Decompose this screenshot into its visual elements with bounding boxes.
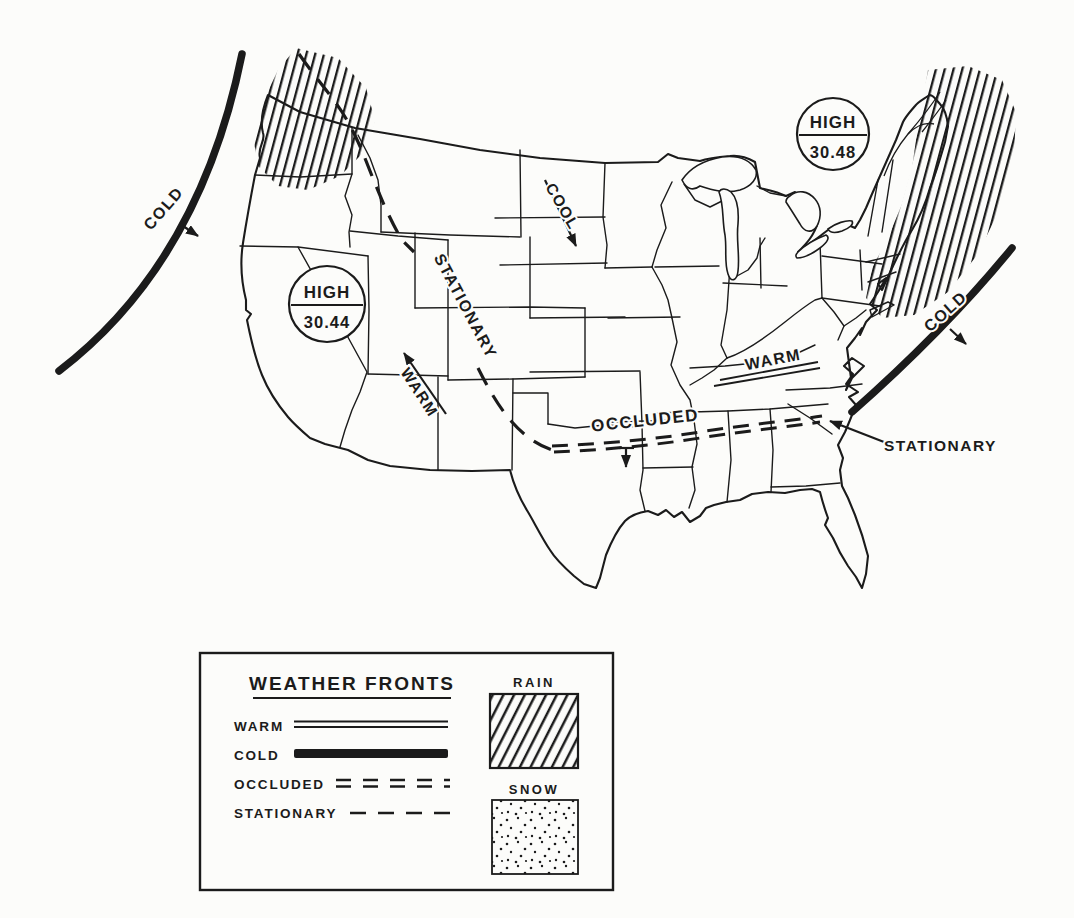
legend-item-warm: WARM xyxy=(234,719,448,734)
stationary-along-line-label: STATIONARY xyxy=(431,251,500,361)
snow-label: SNOW xyxy=(509,782,559,797)
high-east-label: HIGH xyxy=(810,113,857,132)
weather-map-page: HIGH 30.44 HIGH 30.48 COLD COLD STATIONA… xyxy=(0,0,1074,918)
lake-huron xyxy=(786,192,820,231)
stationary-callout-label: STATIONARY xyxy=(884,437,997,454)
occluded-motion-arrow xyxy=(619,448,634,467)
legend-occluded-label: OCCLUDED xyxy=(234,777,325,792)
rain-pattern-box xyxy=(490,694,578,768)
legend-item-occluded: OCCLUDED xyxy=(234,777,450,792)
lake-ontario xyxy=(828,221,853,233)
legend-warm-label: WARM xyxy=(234,719,284,734)
occluded-front-label: OCCLUDED xyxy=(590,405,700,435)
legend-warm-symbol xyxy=(294,722,448,728)
lake-superior xyxy=(682,157,756,192)
high-west-value: 30.44 xyxy=(304,313,350,331)
legend-stationary-label: STATIONARY xyxy=(234,806,337,821)
lake-erie xyxy=(796,235,828,258)
legend-rain-swatch: RAIN xyxy=(490,675,578,768)
warm-front-label: WARM xyxy=(743,346,802,373)
cool-airflow-label: COOL xyxy=(543,180,583,232)
high-pressure-west: HIGH 30.44 xyxy=(289,266,365,342)
legend-cold-symbol xyxy=(294,749,448,758)
high-east-value: 30.48 xyxy=(810,143,856,161)
rain-area-northwest xyxy=(253,48,375,190)
legend-item-stationary: STATIONARY xyxy=(234,806,450,821)
stationary-front-southwest xyxy=(478,368,552,450)
weather-map-figure: HIGH 30.44 HIGH 30.48 COLD COLD STATIONA… xyxy=(0,0,1074,918)
legend: WEATHER FRONTS WARM COLD OCCLUDED STATIO… xyxy=(200,653,613,890)
lake-michigan xyxy=(719,189,739,280)
legend-item-cold: COLD xyxy=(234,748,448,763)
warm-airflow-label: WARM xyxy=(397,365,441,420)
legend-snow-swatch: SNOW xyxy=(492,782,578,874)
great-lakes xyxy=(682,157,853,280)
stationary-callout-arrow xyxy=(830,421,884,442)
high-west-label: HIGH xyxy=(304,283,351,302)
legend-title: WEATHER FRONTS xyxy=(249,673,455,694)
legend-cold-label: COLD xyxy=(234,748,279,763)
snow-pattern-box xyxy=(492,800,578,874)
high-pressure-east: HIGH 30.48 xyxy=(797,98,869,170)
cold-front-east-motion-arrow xyxy=(950,329,966,344)
legend-occluded-symbol xyxy=(336,780,450,787)
rain-label: RAIN xyxy=(513,675,555,690)
